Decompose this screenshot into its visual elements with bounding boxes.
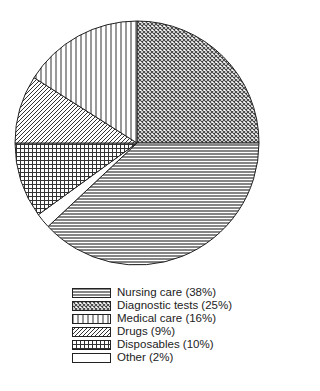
legend-label: Diagnostic tests (25%) xyxy=(117,299,232,312)
legend-item-diagnostic-tests: Diagnostic tests (25%) xyxy=(72,299,232,312)
swatch-crosshatch-icon xyxy=(72,301,111,311)
legend-label: Medical care (16%) xyxy=(117,312,216,325)
swatch-horizontal-lines-icon xyxy=(72,288,111,298)
legend-item-other: Other (2%) xyxy=(72,351,232,364)
legend-item-disposables: Disposables (10%) xyxy=(72,338,232,351)
legend-label: Nursing care (38%) xyxy=(117,286,216,299)
swatch-grid-icon xyxy=(72,340,111,350)
legend-label: Drugs (9%) xyxy=(117,325,175,338)
legend-label: Disposables (10%) xyxy=(117,338,214,351)
legend-item-drugs: Drugs (9%) xyxy=(72,325,232,338)
swatch-vertical-lines-icon xyxy=(72,314,111,324)
legend-item-nursing-care: Nursing care (38%) xyxy=(72,286,232,299)
legend: Nursing care (38%) Diagnostic tests (25%… xyxy=(72,286,232,364)
legend-item-medical-care: Medical care (16%) xyxy=(72,312,232,325)
legend-label: Other (2%) xyxy=(117,351,173,364)
pie-slice-diagnostic-tests xyxy=(137,21,259,143)
swatch-blank-icon xyxy=(72,353,111,363)
swatch-diagonal-lines-icon xyxy=(72,327,111,337)
